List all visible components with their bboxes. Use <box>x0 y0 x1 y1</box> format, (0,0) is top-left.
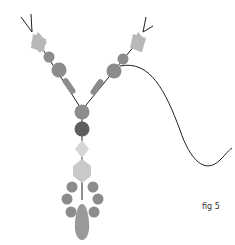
round-bead-dark <box>75 122 90 137</box>
tube-bead <box>61 77 76 95</box>
right-strand <box>89 32 146 96</box>
tube-bead <box>89 78 104 96</box>
diamond-bead-pale <box>75 140 89 158</box>
round-bead <box>52 63 67 78</box>
necklace-diagram <box>0 0 235 245</box>
faceted-bead-pale <box>73 159 91 183</box>
round-bead <box>75 105 90 120</box>
round-bead <box>44 52 55 63</box>
left-strand <box>31 32 77 95</box>
figure-label: fig 5 <box>202 202 220 211</box>
round-bead <box>107 64 122 79</box>
center-stem <box>73 105 91 184</box>
round-bead <box>118 54 129 65</box>
teardrop-pendant <box>75 204 89 240</box>
cord-lines <box>21 14 232 200</box>
